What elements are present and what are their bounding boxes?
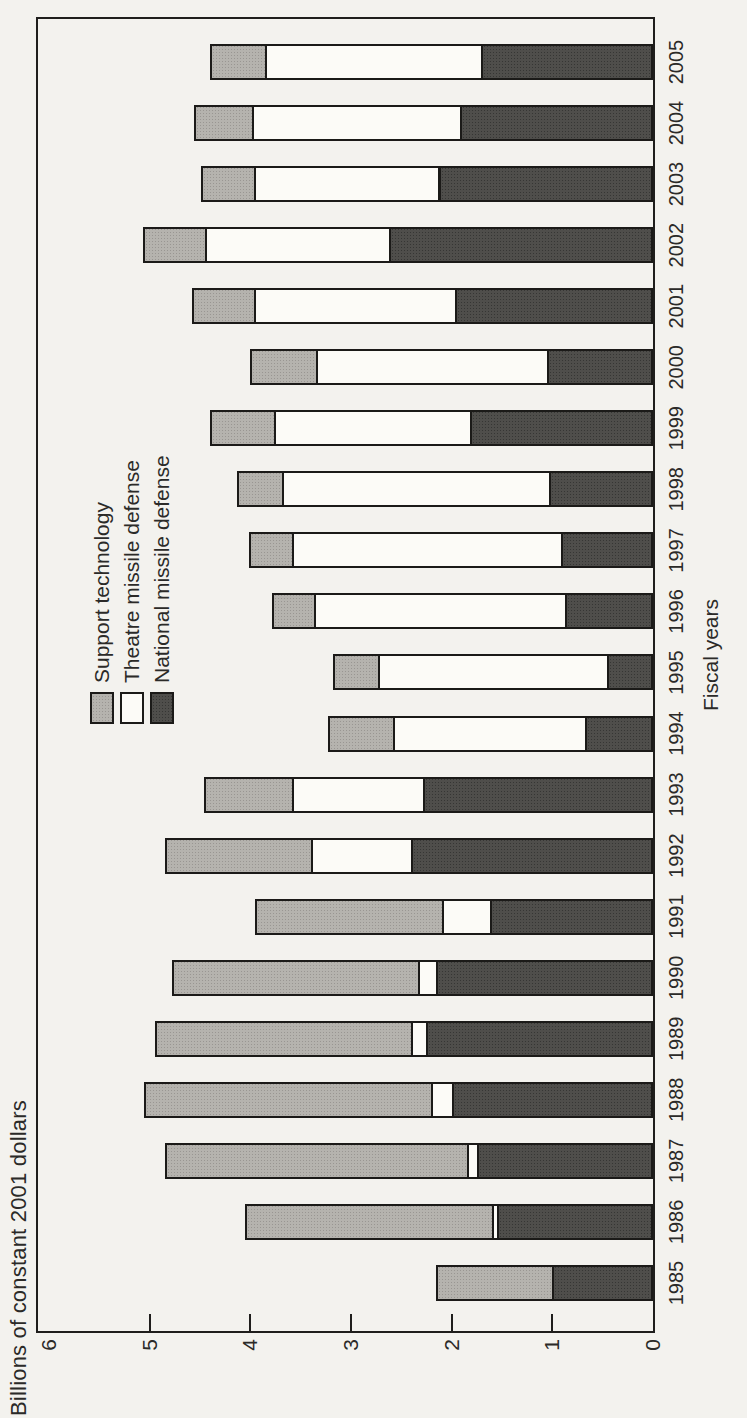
y-tick-2: [451, 1314, 453, 1331]
bar-1996-white-segment: [314, 593, 568, 629]
bar-1997-white-segment: [292, 532, 563, 568]
y-tick-label-2: 2: [441, 1339, 463, 1383]
x-label-1994: 1994: [665, 703, 688, 764]
y-tick-3: [350, 1314, 352, 1331]
bar-1989-white-segment: [411, 1021, 428, 1057]
bar-2002-dark-segment: [389, 227, 653, 263]
legend-row-gray: Support technology: [90, 502, 114, 724]
x-label-1995: 1995: [665, 642, 688, 703]
y-tick-label-6: 6: [38, 1339, 60, 1383]
bar-1993-white-segment: [292, 777, 425, 813]
bar-1998-dark-segment: [549, 471, 653, 507]
bar-2005-white-segment: [265, 44, 482, 80]
x-axis-title: Fiscal years: [699, 545, 723, 765]
y-tick-label-5: 5: [139, 1339, 161, 1383]
bar-2005-gray-segment: [210, 44, 267, 80]
bar-1985-dark-segment: [552, 1265, 653, 1301]
bar-1986-gray-segment: [245, 1204, 494, 1240]
bar-1986-dark-segment: [497, 1204, 653, 1240]
y-tick-1: [551, 1314, 553, 1331]
bar-2004-dark-segment: [460, 105, 653, 141]
bar-1995-white-segment: [378, 655, 609, 691]
x-label-1991: 1991: [665, 886, 688, 947]
x-label-1996: 1996: [665, 581, 688, 642]
bar-1989-gray-segment: [155, 1021, 414, 1057]
bar-2002-white-segment: [205, 227, 391, 263]
bar-1988-dark-segment: [452, 1082, 653, 1118]
bar-1988-white-segment: [431, 1082, 453, 1118]
bar-1987-dark-segment: [477, 1143, 653, 1179]
x-label-2005: 2005: [665, 32, 688, 93]
bar-1994-white-segment: [393, 716, 586, 752]
x-label-2003: 2003: [665, 154, 688, 215]
bar-2001-gray-segment: [192, 288, 256, 324]
x-label-1992: 1992: [665, 825, 688, 886]
bar-1991-white-segment: [442, 899, 492, 935]
bar-1997-gray-segment: [249, 532, 294, 568]
bar-1990-gray-segment: [172, 960, 421, 996]
x-label-1988: 1988: [665, 1069, 688, 1130]
bar-1996-dark-segment: [565, 593, 653, 629]
bar-1992-gray-segment: [165, 838, 313, 874]
bar-1999-white-segment: [274, 410, 471, 446]
bar-2000-dark-segment: [547, 349, 653, 385]
bar-1999-gray-segment: [210, 410, 276, 446]
legend-label-white: Theatre missile defense: [121, 460, 143, 683]
y-tick-label-1: 1: [541, 1339, 563, 1383]
bar-2001-dark-segment: [455, 288, 653, 324]
bar-1993-dark-segment: [423, 777, 653, 813]
y-tick-5: [149, 1314, 151, 1331]
bar-2003-white-segment: [254, 166, 440, 202]
legend-label-dark: National missile defense: [151, 455, 173, 683]
y-axis-title: Billions of constant 2001 dollars: [6, 1100, 32, 1416]
bar-1997-dark-segment: [561, 532, 653, 568]
x-label-1987: 1987: [665, 1130, 688, 1191]
bar-1988-gray-segment: [144, 1082, 433, 1118]
bar-1998-gray-segment: [237, 471, 284, 507]
x-label-1985: 1985: [665, 1253, 688, 1314]
bar-2003-gray-segment: [201, 166, 256, 202]
legend-row-white: Theatre missile defense: [120, 460, 144, 724]
bar-1995-gray-segment: [333, 655, 380, 691]
x-label-2001: 2001: [665, 276, 688, 337]
bar-1994-dark-segment: [585, 716, 653, 752]
bar-1993-gray-segment: [204, 777, 295, 813]
bar-1999-dark-segment: [470, 410, 653, 446]
bar-1995-dark-segment: [607, 655, 653, 691]
bar-2001-white-segment: [254, 288, 456, 324]
bar-1985-gray-segment: [436, 1265, 554, 1301]
legend-swatch-white: [120, 692, 144, 724]
bar-2004-gray-segment: [194, 105, 254, 141]
bar-1992-dark-segment: [411, 838, 653, 874]
bar-1991-dark-segment: [490, 899, 653, 935]
bar-2005-dark-segment: [481, 44, 653, 80]
legend-label-gray: Support technology: [91, 502, 113, 683]
bar-2002-gray-segment: [143, 227, 206, 263]
bar-1990-dark-segment: [436, 960, 653, 996]
bar-1992-white-segment: [311, 838, 414, 874]
x-label-1998: 1998: [665, 459, 688, 520]
bar-2000-gray-segment: [250, 349, 317, 385]
bar-1990-white-segment: [418, 960, 438, 996]
bar-2004-white-segment: [252, 105, 461, 141]
x-label-2002: 2002: [665, 215, 688, 276]
x-label-2004: 2004: [665, 93, 688, 154]
bar-1994-gray-segment: [328, 716, 395, 752]
x-label-1993: 1993: [665, 764, 688, 825]
bar-2000-white-segment: [316, 349, 550, 385]
y-tick-label-3: 3: [340, 1339, 362, 1383]
bar-1998-white-segment: [282, 471, 551, 507]
legend-row-dark: National missile defense: [150, 455, 174, 724]
y-tick-label-0: 0: [642, 1339, 664, 1383]
legend-swatch-gray: [90, 692, 114, 724]
bar-1991-gray-segment: [255, 899, 443, 935]
x-label-1999: 1999: [665, 398, 688, 459]
x-label-1990: 1990: [665, 947, 688, 1008]
bar-1989-dark-segment: [426, 1021, 653, 1057]
x-label-1986: 1986: [665, 1191, 688, 1252]
legend-swatch-dark: [150, 692, 174, 724]
y-tick-label-4: 4: [239, 1339, 261, 1383]
x-label-1997: 1997: [665, 520, 688, 581]
scanned-page: { "page": { "background": "#f3f2ee", "ro…: [0, 0, 747, 1418]
bar-2003-dark-segment: [439, 166, 653, 202]
